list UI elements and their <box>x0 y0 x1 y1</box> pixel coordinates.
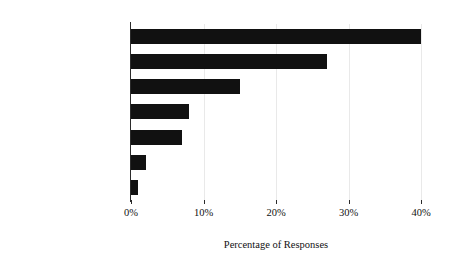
bar-row: Other job <box>131 150 421 175</box>
x-tick-mark <box>204 200 205 204</box>
x-tick-label: 0% <box>101 206 161 220</box>
bar-row: License <box>131 125 421 150</box>
x-tick-label: 20% <box>246 206 306 220</box>
bar-row: Certificate <box>131 49 421 74</box>
bar-row: Pastoral <box>131 99 421 124</box>
x-tick-mark <box>421 200 422 204</box>
x-tick-mark <box>131 200 132 204</box>
bar-row: Other ministry <box>131 175 421 200</box>
bar-row: Training <box>131 74 421 99</box>
bar <box>131 29 421 44</box>
bar <box>131 155 146 170</box>
bar-row: Degree <box>131 24 421 49</box>
x-axis-title: Percentage of Responses <box>131 238 421 251</box>
bar <box>131 79 240 94</box>
bar <box>131 130 182 145</box>
x-tick-mark <box>276 200 277 204</box>
bar <box>131 54 327 69</box>
x-tick-label: 10% <box>174 206 234 220</box>
bar <box>131 104 189 119</box>
bar <box>131 180 138 195</box>
bar-chart-figure: Types of Formal Training DegreeCertifica… <box>0 0 452 265</box>
x-tick-label: 30% <box>319 206 379 220</box>
gridline <box>421 24 422 200</box>
x-tick-label: 40% <box>391 206 451 220</box>
x-tick-mark <box>349 200 350 204</box>
plot-area: DegreeCertificateTrainingPastoralLicense… <box>131 24 421 200</box>
